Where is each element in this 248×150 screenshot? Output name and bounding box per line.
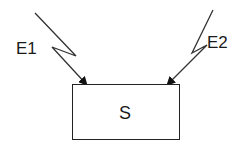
edge-e1-lightning-arrow	[35, 13, 87, 85]
system-node-label: S	[119, 104, 131, 122]
input-label-e2: E2	[207, 34, 228, 51]
input-label-e1: E1	[16, 40, 37, 57]
diagram-canvas: E1 E2 S	[0, 0, 248, 150]
